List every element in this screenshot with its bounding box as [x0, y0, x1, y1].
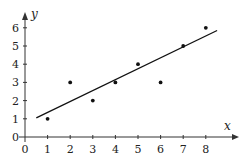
x-tick-label: 3: [89, 143, 96, 156]
x-tick-label: 4: [112, 143, 119, 156]
axes: [19, 12, 239, 142]
scatter-chart: 0123456780123456 x y: [0, 0, 243, 167]
best-fit-line: [36, 31, 217, 118]
data-point: [68, 81, 72, 85]
y-tick-label: 2: [12, 95, 19, 108]
y-tick-label: 3: [12, 76, 19, 89]
ticks: 0123456780123456: [12, 22, 209, 156]
data-point: [91, 99, 95, 103]
x-tick-label: 1: [44, 143, 51, 156]
x-tick-label: 2: [67, 143, 74, 156]
y-axis-arrow-icon: [22, 12, 28, 20]
fit-line-segment: [36, 31, 217, 118]
y-tick-label: 5: [12, 40, 19, 53]
data-point: [46, 117, 50, 121]
y-tick-label: 4: [12, 58, 19, 71]
data-points: [46, 26, 208, 121]
x-tick-label: 7: [180, 143, 187, 156]
x-tick-label: 8: [202, 143, 209, 156]
data-point: [204, 26, 208, 30]
y-tick-label: 6: [12, 22, 19, 35]
data-point: [114, 81, 118, 85]
y-tick-label: 1: [12, 113, 19, 126]
x-axis-arrow-icon: [232, 134, 239, 140]
data-point: [136, 62, 140, 66]
x-tick-label: 6: [157, 143, 164, 156]
data-point: [159, 81, 163, 85]
data-point: [181, 44, 185, 48]
x-tick-label: 0: [22, 143, 29, 156]
y-tick-label: 0: [12, 131, 19, 144]
y-axis-label: y: [30, 7, 38, 21]
x-tick-label: 5: [135, 143, 142, 156]
x-axis-label: x: [224, 119, 231, 133]
